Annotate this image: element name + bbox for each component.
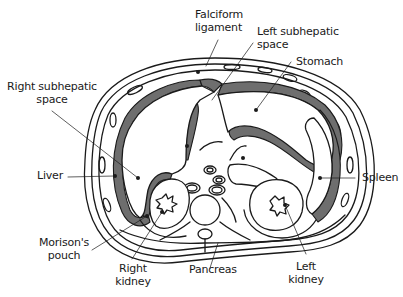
vessel-1 bbox=[204, 166, 216, 174]
spinal-canal bbox=[198, 229, 212, 239]
abdominal-cross-section-diagram: Falciform ligament Left subhepatic space… bbox=[0, 0, 403, 297]
vessel-2 bbox=[213, 176, 225, 184]
label-spleen: Spleen bbox=[362, 171, 398, 184]
label-left-kidney: Left kidney bbox=[286, 260, 326, 286]
label-morisons-pouch: Morison's pouch bbox=[36, 236, 92, 262]
label-liver: Liver bbox=[37, 169, 63, 182]
label-stomach: Stomach bbox=[296, 55, 343, 68]
label-left-subhepatic-space: Left subhepatic space bbox=[257, 25, 339, 51]
left-kidney bbox=[250, 180, 303, 231]
vertebral-body bbox=[190, 195, 220, 225]
label-right-subhepatic-space: Right subhepatic space bbox=[7, 80, 97, 106]
label-right-kidney: Right kidney bbox=[113, 262, 153, 288]
right-kidney bbox=[150, 179, 190, 228]
label-falciform-ligament: Falciform ligament bbox=[195, 8, 243, 34]
label-pancreas: Pancreas bbox=[189, 263, 237, 276]
